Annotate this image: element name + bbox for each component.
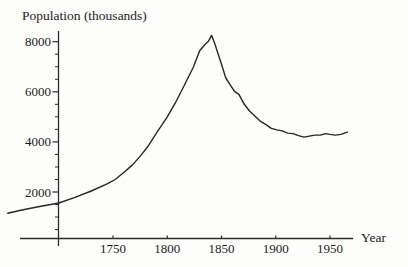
y-tick-label: 6000 — [25, 84, 51, 99]
x-tick-label: 1900 — [263, 241, 289, 256]
chart: Population (thousands) 20004000600080001… — [0, 0, 408, 267]
x-tick-label: 1750 — [100, 241, 126, 256]
x-tick-label: 1950 — [317, 241, 343, 256]
x-axis-label: Year — [361, 230, 386, 246]
plot-svg: 200040006000800017501800185019001950 — [0, 0, 408, 267]
x-tick-label: 1850 — [209, 241, 235, 256]
x-tick-label: 1800 — [154, 241, 180, 256]
y-tick-label: 4000 — [25, 134, 51, 149]
y-tick-label: 8000 — [25, 34, 51, 49]
y-tick-label: 2000 — [25, 185, 51, 200]
